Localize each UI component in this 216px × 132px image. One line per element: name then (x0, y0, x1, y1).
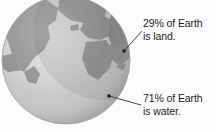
callout-water: 71% of Earth is water. (143, 92, 203, 117)
callout-land: 29% of Earth is land. (143, 17, 203, 42)
globe-illustration (0, 0, 140, 132)
landmass-east-asia (128, 26, 140, 40)
globe-svg (0, 0, 140, 132)
callout-land-line2: is land. (143, 30, 203, 43)
callout-land-line1: 29% of Earth (143, 17, 203, 29)
globe-landmasses (0, 0, 140, 132)
earth-land-water-diagram: 29% of Earth is land. 71% of Earth is wa… (0, 0, 216, 132)
callout-water-line2: is water. (143, 105, 203, 118)
callout-water-line1: 71% of Earth (143, 92, 203, 104)
